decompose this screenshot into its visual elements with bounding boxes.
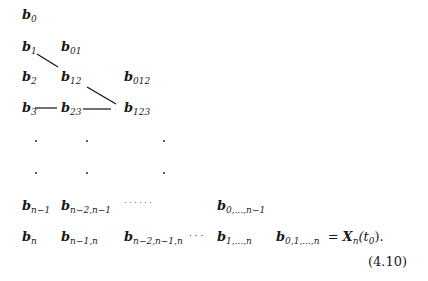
vdot xyxy=(86,140,88,142)
term-bn-1n: bn−1,n xyxy=(61,230,98,245)
term-bn-1: bn−1 xyxy=(22,199,50,214)
term-b23: b23 xyxy=(61,101,82,116)
ellipsis: · · · · · · xyxy=(124,196,152,210)
term-bn: bn xyxy=(22,230,37,245)
connector-b1-b12 xyxy=(37,54,58,67)
term-bn-2n-1n: bn−2,n−1,n xyxy=(124,230,183,245)
term-b1-n: b1,...,n xyxy=(217,230,252,245)
equals-sign: = xyxy=(328,229,339,244)
vdot xyxy=(163,172,165,174)
connector-b12-b123 xyxy=(87,87,116,104)
term-b01: b01 xyxy=(61,40,82,55)
vdot xyxy=(35,172,37,174)
equation-number: (4.10) xyxy=(368,254,407,269)
term-b12: b12 xyxy=(61,70,82,85)
term-bn-2n-1: bn−2,n−1 xyxy=(61,199,111,214)
vdot xyxy=(35,140,37,142)
term-b012: b012 xyxy=(124,70,150,85)
term-b0-n-1: b0,...,n−1 xyxy=(217,199,265,214)
term-b1: b1 xyxy=(22,40,37,55)
vdot xyxy=(163,140,165,142)
vdot xyxy=(86,172,88,174)
term-b01-n: b0,1,...,n =Xn(t0). xyxy=(276,230,384,245)
ellipsis: · · · xyxy=(189,229,203,243)
term-b123: b123 xyxy=(124,101,150,116)
term-b2: b2 xyxy=(22,70,37,85)
term-b0: b0 xyxy=(22,8,37,23)
rhs-X: X xyxy=(343,229,353,244)
term-b3: b3 xyxy=(22,101,37,116)
